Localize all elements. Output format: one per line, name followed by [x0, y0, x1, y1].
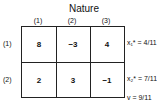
payoff-cell: 2: [22, 63, 56, 98]
column-header-2: (2): [55, 17, 89, 24]
payoff-cell: −3: [56, 27, 90, 62]
payoff-cell: 3: [56, 63, 90, 98]
column-header-3: (3): [89, 17, 123, 24]
x2-annotation: x₂* = 7/11: [127, 75, 157, 82]
payoff-cell: −1: [90, 63, 124, 98]
payoff-cell: 4: [90, 27, 124, 62]
payoff-cell: 8: [22, 27, 56, 62]
row-header-1: (1): [3, 40, 12, 47]
value-annotation: v = 9/11: [127, 94, 152, 101]
x1-annotation: x₁* = 4/11: [127, 39, 157, 46]
column-header-1: (1): [21, 17, 55, 24]
payoff-matrix: 8 −3 4 2 3 −1: [21, 26, 125, 98]
row-header-2: (2): [3, 76, 12, 83]
nature-title: Nature: [54, 3, 114, 14]
